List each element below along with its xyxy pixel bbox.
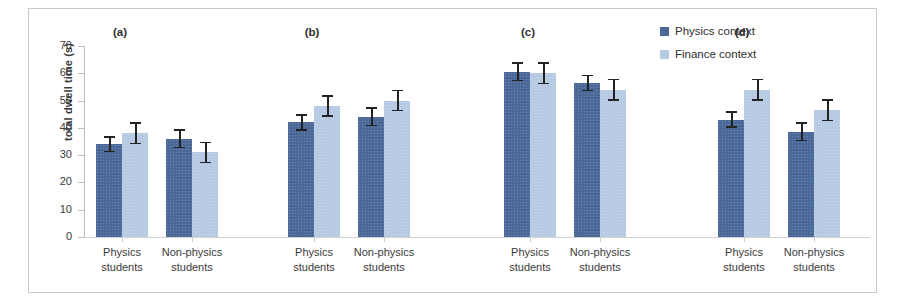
legend: Physics context Finance context bbox=[660, 25, 756, 71]
error-bar-cap-top bbox=[822, 99, 833, 101]
x-group-label: Non-physicsstudents bbox=[769, 245, 859, 275]
error-bar-cap-top bbox=[796, 122, 807, 124]
error-bar-cap-top bbox=[752, 79, 763, 81]
error-bar-cap-bottom bbox=[726, 126, 737, 128]
error-bar-cap-bottom bbox=[822, 120, 833, 122]
bar[interactable] bbox=[718, 120, 744, 237]
bar[interactable] bbox=[788, 132, 814, 237]
error-bar-cap-bottom bbox=[752, 99, 763, 101]
error-bar bbox=[801, 122, 803, 141]
panel-d: (d)PhysicsstudentsNon-physicsstudents bbox=[0, 8, 905, 285]
legend-swatch-physics-context bbox=[660, 27, 669, 36]
legend-label-finance-context: Finance context bbox=[675, 48, 756, 60]
error-bar-cap-bottom bbox=[796, 140, 807, 142]
error-bar bbox=[757, 79, 759, 101]
error-bar-cap-top bbox=[726, 111, 737, 113]
legend-label-physics-context: Physics context bbox=[675, 25, 755, 37]
legend-item-finance-context[interactable]: Finance context bbox=[660, 48, 756, 60]
error-bar bbox=[731, 111, 733, 127]
figure-bar-chart-dwell-time: total dwell time (s) 010203040506070 (a)… bbox=[0, 0, 905, 303]
legend-item-physics-context[interactable]: Physics context bbox=[660, 25, 756, 37]
x-group-label-line2: students bbox=[769, 260, 859, 275]
bar[interactable] bbox=[814, 110, 840, 237]
error-bar bbox=[827, 99, 829, 121]
x-group-label-line1: Non-physics bbox=[769, 245, 859, 260]
bar[interactable] bbox=[744, 90, 770, 237]
legend-swatch-finance-context bbox=[660, 50, 669, 59]
